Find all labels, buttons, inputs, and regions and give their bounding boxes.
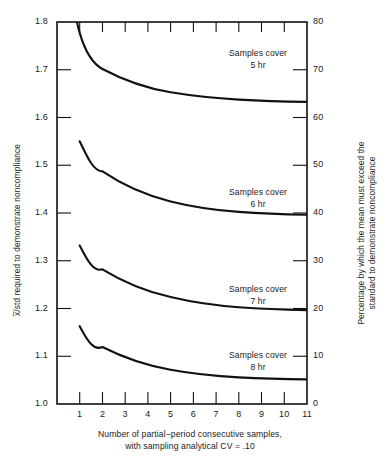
y-tick-label-left: 1.8 [18,16,48,26]
curve-annotation-7hr: Samples cover 7 hr [216,284,300,307]
curve-annotation-5hr-line1: Samples cover [229,48,287,58]
y-tick-label-right: 10 [313,350,337,360]
curve-annotation-5hr-line2: 5 hr [250,60,265,70]
x-tick-label: 7 [207,409,225,419]
y-axis-title-right-line1: Percentage by which the mean must exceed… [356,141,366,324]
x-axis-title-line2: with sampling analytical CV = .10 [125,441,255,451]
y-axis-title-right: Percentage by which the mean must exceed… [356,108,378,358]
y-axis-title-left-wrap: x̅/std required to demonstrate noncompli… [6,105,28,355]
y-tick-label-left: 1.7 [18,64,48,74]
x-axis-title-line1: Number of partial−period consecutive sam… [98,429,282,439]
y-tick-label-right: 0 [313,398,337,408]
x-tick-label: 6 [184,409,202,419]
curve-annotation-6hr-line2: 6 hr [250,199,265,209]
x-tick-label: 11 [298,409,316,419]
curve-annotation-5hr: Samples cover 5 hr [216,48,300,71]
y-tick-label-right: 30 [313,255,337,265]
y-tick-label-right: 40 [313,207,337,217]
y-tick-label-right: 70 [313,64,337,74]
chart-figure: 1.8 1.7 1.6 1.5 1.4 1.3 1.2 1.1 1.0 80 7… [0,0,389,465]
curve-annotation-7hr-line2: 7 hr [250,296,265,306]
curve-annotation-6hr-line1: Samples cover [229,187,287,197]
curve-annotation-8hr-line2: 8 hr [250,362,265,372]
y-axis-title-right-line2: standard to demonstrate noncompliance [367,156,377,309]
curve-annotation-8hr-line1: Samples cover [229,350,287,360]
y-tick-label-right: 20 [313,303,337,313]
x-tick-label: 5 [162,409,180,419]
curve-annotation-7hr-line1: Samples cover [229,284,287,294]
curve-annotation-8hr: Samples cover 8 hr [216,350,300,373]
x-tick-label: 1 [71,409,89,419]
curve-annotation-6hr: Samples cover 6 hr [216,187,300,210]
x-tick-label: 8 [230,409,248,419]
x-tick-label: 10 [275,409,293,419]
x-tick-label: 9 [253,409,271,419]
y-axis-title-left: x̅/std required to demonstrate noncompli… [12,105,22,355]
y-tick-label-right: 60 [313,112,337,122]
x-tick-label: 4 [139,409,157,419]
x-tick-label: 3 [116,409,134,419]
y-tick-label-left: 1.0 [18,398,48,408]
y-tick-label-right: 50 [313,159,337,169]
y-tick-label-right: 80 [313,16,337,26]
x-axis-title: Number of partial−period consecutive sam… [40,428,340,452]
x-tick-label: 2 [94,409,112,419]
y-axis-title-right-wrap: Percentage by which the mean must exceed… [352,108,382,358]
